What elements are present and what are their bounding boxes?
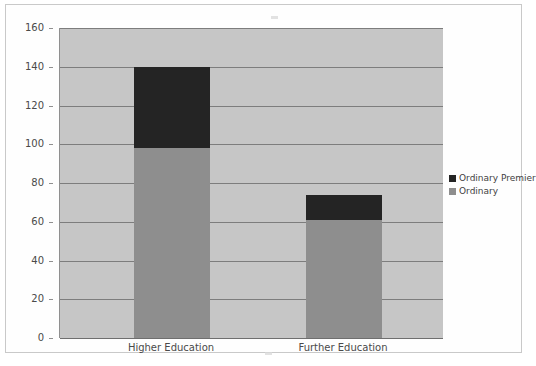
x-tick-label-further-education: Further Education — [263, 342, 423, 354]
legend-swatch-ordinary-icon — [449, 188, 456, 195]
gridline-80 — [60, 183, 443, 184]
bar-segment-further-education-ordinary[interactable] — [306, 220, 382, 338]
y-tick-mark-0 — [49, 338, 53, 339]
y-tick-mark-120 — [49, 106, 53, 107]
y-tick-mark-60 — [49, 222, 53, 223]
y-tick-mark-80 — [49, 183, 53, 184]
y-tick-mark-20 — [49, 299, 53, 300]
y-tick-mark-160 — [49, 28, 53, 29]
bar-segment-higher-education-ordinary-premier[interactable] — [134, 67, 210, 148]
y-tick-label-120: 120 — [25, 101, 44, 111]
y-tick-label-60: 60 — [31, 217, 44, 227]
legend: Ordinary Premier Ordinary — [449, 173, 529, 199]
chart-figure: 020406080100120140160 Higher Education F… — [5, 4, 522, 353]
y-tick-label-80: 80 — [31, 178, 44, 188]
legend-label-ordinary-premier: Ordinary Premier — [459, 173, 536, 184]
x-axis: Higher Education Further Education — [59, 342, 443, 358]
gridline-40 — [60, 261, 443, 262]
y-tick-mark-40 — [49, 261, 53, 262]
scan-artifact-top — [271, 16, 278, 19]
gridlines — [60, 28, 443, 338]
y-tick-label-160: 160 — [25, 23, 44, 33]
legend-swatch-ordinary-premier-icon — [449, 175, 456, 182]
gridline-20 — [60, 299, 443, 300]
y-tick-mark-100 — [49, 144, 53, 145]
bar-segment-further-education-ordinary-premier[interactable] — [306, 195, 382, 220]
x-tick-label-higher-education: Higher Education — [91, 342, 251, 354]
gridline-100 — [60, 144, 443, 145]
plot-area — [59, 28, 443, 338]
scan-artifact-bottom — [265, 352, 272, 355]
gridline-120 — [60, 106, 443, 107]
gridline-60 — [60, 222, 443, 223]
y-tick-label-20: 20 — [31, 294, 44, 304]
legend-item-ordinary[interactable]: Ordinary — [449, 186, 529, 197]
legend-label-ordinary: Ordinary — [459, 186, 498, 197]
bar-further-education[interactable] — [306, 195, 382, 338]
gridline-0 — [60, 338, 443, 339]
bar-higher-education[interactable] — [134, 67, 210, 338]
bar-segment-higher-education-ordinary[interactable] — [134, 148, 210, 338]
gridline-160 — [60, 28, 443, 29]
y-axis: 020406080100120140160 — [6, 28, 53, 338]
gridline-140 — [60, 67, 443, 68]
y-tick-mark-140 — [49, 67, 53, 68]
legend-item-ordinary-premier[interactable]: Ordinary Premier — [449, 173, 529, 184]
y-tick-label-40: 40 — [31, 256, 44, 266]
y-tick-label-100: 100 — [25, 139, 44, 149]
y-tick-label-140: 140 — [25, 62, 44, 72]
y-tick-label-0: 0 — [38, 333, 44, 343]
